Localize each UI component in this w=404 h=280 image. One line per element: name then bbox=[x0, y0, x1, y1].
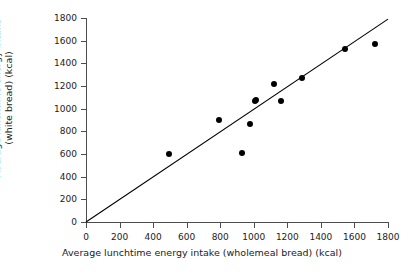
y-axis-title-line-2: (white bread) (kcal) bbox=[3, 0, 15, 213]
x-axis-tick-label: 200 bbox=[105, 233, 135, 242]
x-axis-tick bbox=[153, 223, 154, 228]
y-axis-tick-label: 800 bbox=[47, 127, 77, 136]
x-axis-tick-label: 400 bbox=[138, 233, 168, 242]
x-axis-tick-label: 1000 bbox=[239, 233, 269, 242]
x-axis-tick bbox=[287, 223, 288, 228]
y-axis-tick-label: 1600 bbox=[47, 37, 77, 46]
data-point bbox=[166, 151, 172, 157]
x-axis-tick-label: 0 bbox=[71, 233, 101, 242]
y-axis-tick-label: 1400 bbox=[47, 59, 77, 68]
x-axis-tick bbox=[354, 223, 355, 228]
x-axis-tick bbox=[86, 223, 87, 228]
x-axis-tick-label: 600 bbox=[172, 233, 202, 242]
x-axis-tick bbox=[254, 223, 255, 228]
x-axis-tick-label: 1400 bbox=[306, 233, 336, 242]
data-point bbox=[239, 150, 245, 156]
y-axis-tick-label: 600 bbox=[47, 150, 77, 159]
x-axis-title: Average lunchtime energy intake (wholeme… bbox=[0, 247, 404, 258]
x-axis-tick bbox=[220, 223, 221, 228]
x-axis-tick-label: 1800 bbox=[373, 233, 403, 242]
y-axis-tick-label: 0 bbox=[47, 218, 77, 227]
scatter-chart-figure: 020040060080010001200140016001800 020040… bbox=[0, 0, 404, 280]
y-axis-tick-label: 1000 bbox=[47, 105, 77, 114]
y-axis-title: Average lunchtime energy intake (white b… bbox=[0, 0, 15, 213]
x-axis-tick-label: 800 bbox=[205, 233, 235, 242]
y-axis-tick-label: 1200 bbox=[47, 82, 77, 91]
y-axis-tick-label: 1800 bbox=[47, 14, 77, 23]
x-axis-tick-label: 1600 bbox=[339, 233, 369, 242]
y-axis-tick-label: 400 bbox=[47, 173, 77, 182]
x-axis-tick-label: 1200 bbox=[272, 233, 302, 242]
y-axis-tick-label: 200 bbox=[47, 195, 77, 204]
data-point bbox=[253, 97, 259, 103]
data-point bbox=[247, 121, 253, 127]
x-axis-tick bbox=[388, 223, 389, 228]
data-point bbox=[216, 117, 222, 123]
plot-area: 020040060080010001200140016001800 020040… bbox=[86, 18, 388, 222]
x-axis-tick bbox=[187, 223, 188, 228]
data-point bbox=[299, 75, 305, 81]
data-point bbox=[372, 41, 378, 47]
x-axis-tick bbox=[120, 223, 121, 228]
x-axis-tick bbox=[321, 223, 322, 228]
